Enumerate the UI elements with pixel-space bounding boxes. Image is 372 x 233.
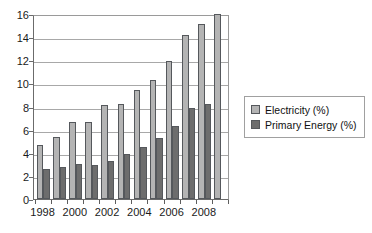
- y-axis-tick-label: 6: [7, 126, 29, 137]
- legend-item[interactable]: Electricity (%): [251, 102, 357, 117]
- legend-swatch-electricity: [251, 105, 260, 114]
- legend-item[interactable]: Primary Energy (%): [251, 117, 357, 132]
- bar: [124, 154, 130, 199]
- legend-item-label: Primary Energy (%): [265, 119, 357, 131]
- bar-group: [132, 16, 148, 199]
- x-axis: 199820002002200420062008: [33, 206, 229, 226]
- bar-group: [197, 16, 213, 199]
- y-axis-tick-label: 2: [7, 172, 29, 183]
- x-axis-tick-mark: [35, 200, 36, 204]
- y-axis-tick-label: 8: [7, 103, 29, 114]
- bar: [92, 165, 98, 199]
- bar: [140, 147, 146, 199]
- y-axis: 0246810121416: [0, 15, 29, 200]
- x-axis-tick-mark: [115, 200, 116, 204]
- legend-swatch-primary-energy: [251, 120, 260, 129]
- bar: [76, 164, 82, 199]
- x-axis-tick-label: 2002: [95, 206, 119, 219]
- bar-group: [181, 16, 197, 199]
- chart-legend: Electricity (%)Primary Energy (%): [244, 96, 365, 138]
- legend-item-label: Electricity (%): [265, 104, 329, 116]
- x-axis-tick-mark: [67, 200, 68, 204]
- bar: [189, 108, 195, 199]
- bar-group: [165, 16, 181, 199]
- bar-group: [52, 16, 68, 199]
- x-axis-ticks: [33, 200, 229, 205]
- x-axis-tick-label: 2008: [192, 206, 216, 219]
- x-axis-tick-mark: [131, 200, 132, 204]
- y-axis-tick-label: 0: [7, 195, 29, 206]
- bar: [60, 167, 66, 199]
- bar-group: [68, 16, 84, 199]
- y-axis-tick-label: 12: [7, 56, 29, 67]
- bar: [156, 138, 162, 199]
- x-axis-tick-label: 1998: [30, 206, 54, 219]
- bar: [172, 126, 178, 199]
- bar: [214, 14, 220, 199]
- y-axis-tick-label: 16: [7, 10, 29, 21]
- x-axis-tick-mark: [228, 200, 229, 204]
- y-axis-tick-label: 14: [7, 33, 29, 44]
- plot-area: [33, 15, 229, 200]
- x-axis-tick-label: 2000: [63, 206, 87, 219]
- y-axis-tick-label: 10: [7, 79, 29, 90]
- x-axis-tick-mark: [99, 200, 100, 204]
- x-axis-tick-mark: [212, 200, 213, 204]
- x-axis-tick-mark: [51, 200, 52, 204]
- bar: [205, 104, 211, 199]
- x-axis-tick-mark: [180, 200, 181, 204]
- bar-group: [36, 16, 52, 199]
- bar-group: [116, 16, 132, 199]
- bar-chart: 0246810121416 199820002002200420062008 E…: [0, 0, 372, 233]
- bar-group: [84, 16, 100, 199]
- x-axis-tick-mark: [83, 200, 84, 204]
- bar-group: [213, 16, 229, 199]
- x-axis-tick-mark: [164, 200, 165, 204]
- bar: [43, 169, 49, 199]
- y-axis-tick-label: 4: [7, 149, 29, 160]
- x-axis-tick-label: 2006: [159, 206, 183, 219]
- bar: [108, 161, 114, 199]
- bar-group: [148, 16, 164, 199]
- x-axis-tick-mark: [147, 200, 148, 204]
- bar-groups: [36, 16, 228, 199]
- x-axis-tick-mark: [196, 200, 197, 204]
- bar-group: [100, 16, 116, 199]
- x-axis-tick-label: 2004: [127, 206, 151, 219]
